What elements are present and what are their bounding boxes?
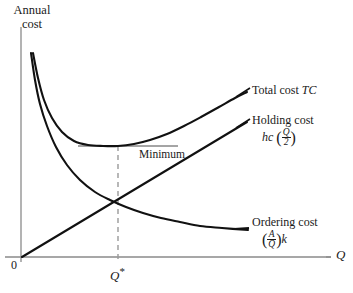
minimum-annotation-label: Minimum [139,148,185,160]
qstar-asterisk: * [119,265,125,277]
y-axis-label: Annual cost [4,4,60,31]
ordering-cost-series-label: Ordering cost [252,216,318,229]
total-cost-symbol: TC [302,83,317,97]
holding-cost-formula-prefix: hc [262,130,273,144]
holding-cost-line [22,122,247,257]
right-paren-icon-2: ) [276,231,281,248]
y-axis-label-line1: Annual [14,3,51,17]
right-paren-icon: ) [291,129,296,146]
total-cost-text: Total cost [252,83,299,97]
ordering-cost-formula: (AQ)k [262,230,287,250]
optimal-quantity-tick-label: Q* [110,266,125,283]
holding-cost-formula: hc (Q2) [262,128,296,148]
origin-label: 0 [11,259,17,272]
x-axis-label: Q [336,248,345,262]
ordering-cost-denominator: Q [267,239,276,250]
holding-cost-denominator: 2 [282,137,291,148]
ordering-cost-fraction: AQ [267,230,276,250]
holding-cost-leader [236,119,250,128]
ordering-cost-numerator: A [267,230,276,240]
qstar-text: Q [110,268,119,283]
total-cost-curve [33,53,247,146]
holding-cost-series-label: Holding cost [252,114,314,127]
eoq-chart: Annual cost Q 0 Q* Minimum Total cost TC… [0,0,353,293]
chart-canvas [0,0,353,293]
total-cost-series-label: Total cost TC [252,84,317,97]
ordering-cost-formula-suffix: k [282,232,287,246]
holding-cost-numerator: Q [282,128,291,138]
holding-cost-fraction: Q2 [282,128,291,148]
y-axis-label-line2: cost [4,18,60,32]
ordering-cost-leader [234,228,249,229]
